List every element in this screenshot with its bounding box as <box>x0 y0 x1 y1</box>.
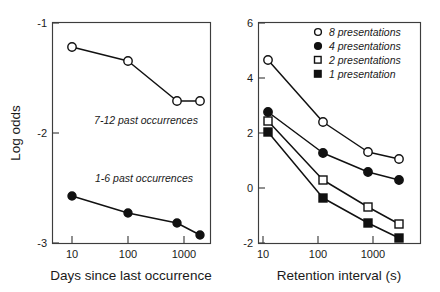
right-xtick-label-2: 1000 <box>361 248 385 260</box>
left-xtick-label-0: 10 <box>66 248 78 260</box>
series-8-presentations-point <box>319 118 327 126</box>
series-1-6-point <box>196 231 204 239</box>
right-xtick-label-0: 10 <box>257 248 269 260</box>
series-1-6-past-occurrences <box>68 192 204 239</box>
left-panel-y-ticks <box>53 23 60 243</box>
right-xtick-label-1: 100 <box>309 248 327 260</box>
legend-marker-open-square-icon <box>315 57 322 64</box>
left-panel: -1 -2 -3 10 100 1000 Log odds Days since… <box>8 17 212 283</box>
left-xtick-label-1: 100 <box>119 248 137 260</box>
series-7-12-point <box>196 97 204 105</box>
left-ytick-label-1: -2 <box>37 127 47 139</box>
series-2-presentations-line <box>268 121 399 224</box>
left-xtick-label-2: 1000 <box>172 248 196 260</box>
series-1-presentation-point <box>319 194 327 202</box>
series-1-6-point <box>124 209 132 217</box>
right-panel: 6 4 2 0 -2 10 100 1000 Retention interva… <box>243 17 420 283</box>
legend-marker-open-circle-icon <box>315 29 322 36</box>
series-7-12-past-occurrences <box>68 43 204 105</box>
series-1-6-line <box>72 196 200 235</box>
series-2-presentations-point <box>395 220 403 228</box>
series-8-presentations-point <box>395 155 403 163</box>
right-ytick-label-2: 2 <box>247 127 253 139</box>
left-panel-x-ticks <box>72 236 184 243</box>
series-1-6-point <box>173 219 181 227</box>
series-1-presentation-point <box>395 234 403 242</box>
left-ytick-label-2: -3 <box>37 237 47 249</box>
series-2-presentations-point <box>319 176 327 184</box>
legend-marker-filled-circle-icon <box>315 43 322 50</box>
series-2-presentations <box>264 117 403 228</box>
left-ytick-label-0: -1 <box>37 17 47 29</box>
right-ytick-label-0: 6 <box>247 17 253 29</box>
legend-label-8-presentations: 8 presentations <box>329 26 402 38</box>
right-ytick-label-4: -2 <box>243 237 253 249</box>
series-7-12-point <box>68 43 76 51</box>
series-7-12-line <box>72 47 200 101</box>
annotation-7-12-past-occurrences: 7-12 past occurrences <box>94 114 199 126</box>
two-panel-line-chart: -1 -2 -3 10 100 1000 Log odds Days since… <box>0 0 440 292</box>
series-4-presentations-point <box>264 108 272 116</box>
right-ytick-label-3: 0 <box>247 182 253 194</box>
series-4-presentations-point <box>364 168 372 176</box>
series-2-presentations-point <box>264 117 272 125</box>
right-panel-legend: 8 presentations 4 presentations 2 presen… <box>315 26 402 80</box>
right-panel-x-axis-title: Retention interval (s) <box>277 268 402 283</box>
series-4-presentations-point <box>395 176 403 184</box>
right-panel-x-ticks <box>263 236 373 243</box>
series-1-presentation-point <box>364 219 372 227</box>
left-panel-y-axis-title: Log odds <box>8 105 23 161</box>
series-1-presentation-point <box>264 128 272 136</box>
series-1-presentation-line <box>268 132 399 238</box>
annotation-1-6-past-occurrences: 1-6 past occurrences <box>95 172 194 184</box>
series-4-presentations-point <box>319 149 327 157</box>
left-panel-x-axis-title: Days since last occurrence <box>50 268 211 283</box>
series-2-presentations-point <box>364 203 372 211</box>
series-1-presentation <box>264 128 403 242</box>
legend-label-4-presentations: 4 presentations <box>329 40 402 52</box>
series-8-presentations-point <box>264 56 272 64</box>
series-7-12-point <box>124 57 132 65</box>
series-1-6-point <box>68 192 76 200</box>
series-7-12-point <box>173 97 181 105</box>
legend-marker-filled-square-icon <box>315 71 322 78</box>
figure-container: -1 -2 -3 10 100 1000 Log odds Days since… <box>0 0 440 292</box>
series-8-presentations-point <box>364 148 372 156</box>
legend-label-1-presentation: 1 presentation <box>329 68 396 80</box>
series-4-presentations-line <box>268 112 399 180</box>
series-4-presentations <box>264 108 403 184</box>
right-ytick-label-1: 4 <box>247 72 253 84</box>
legend-label-2-presentations: 2 presentations <box>328 54 402 66</box>
